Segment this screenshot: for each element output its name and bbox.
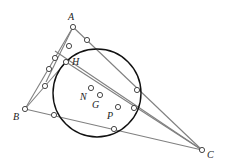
label-p: P xyxy=(106,110,113,121)
foot-point-9 xyxy=(111,126,116,131)
point-g xyxy=(97,92,102,97)
label-g: G xyxy=(92,99,99,110)
foot-point-8 xyxy=(131,105,136,110)
label-c: C xyxy=(207,149,214,160)
point-c xyxy=(199,147,204,152)
foot-point-3 xyxy=(52,55,57,60)
foot-point-5 xyxy=(42,83,47,88)
point-p xyxy=(115,104,120,109)
geometry-diagram: A B C H N G P xyxy=(0,0,225,165)
foot-point-6 xyxy=(51,112,56,117)
point-n xyxy=(88,85,93,90)
label-a: A xyxy=(67,11,75,22)
point-b xyxy=(22,106,27,111)
point-h xyxy=(63,59,68,64)
foot-point-1 xyxy=(84,37,89,42)
label-n: N xyxy=(79,91,88,102)
label-h: H xyxy=(71,56,80,67)
label-b: B xyxy=(13,111,19,122)
foot-point-2 xyxy=(66,43,71,48)
point-a xyxy=(70,24,75,29)
foot-point-4 xyxy=(46,66,51,71)
foot-point-7 xyxy=(134,87,139,92)
